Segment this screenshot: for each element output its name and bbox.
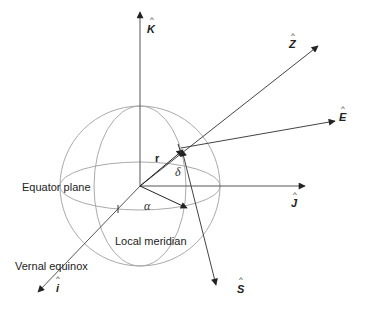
vernal-equinox-label: Vernal equinox <box>15 260 88 272</box>
alpha-label: α <box>144 199 151 213</box>
s-label: ^ S <box>237 275 245 295</box>
r-label: r <box>155 152 160 164</box>
k-label: ^ K <box>147 15 156 35</box>
e-axis <box>181 121 335 148</box>
delta-label: δ <box>175 165 181 179</box>
z-label: ^ Z <box>288 31 297 50</box>
i-label: ^ i <box>56 274 60 294</box>
e-label: ^ E <box>339 104 347 123</box>
svg-text:J: J <box>291 197 298 209</box>
svg-text:S: S <box>237 283 245 295</box>
equator-plane-label: Equator plane <box>22 181 91 193</box>
local-meridian-label: Local meridian <box>115 235 187 247</box>
j-label: ^ J <box>291 190 298 209</box>
svg-text:Z: Z <box>288 38 297 50</box>
svg-text:E: E <box>339 111 347 123</box>
celestial-coordinate-diagram: ^ K ^ Z ^ E ^ J ^ i ^ S r δ α Equator pl… <box>0 0 366 310</box>
svg-text:K: K <box>147 23 156 35</box>
z-axis <box>140 46 318 186</box>
svg-text:i: i <box>56 282 60 294</box>
